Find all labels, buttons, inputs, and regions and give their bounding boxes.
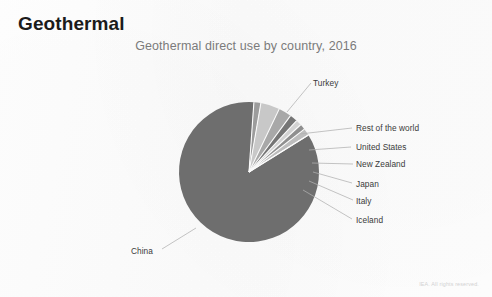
callout-label-italy: Italy [356,196,371,206]
callout-label-rest-of-the-world: Rest of the world [356,123,419,133]
callout-label-turkey: Turkey [313,78,338,88]
leader-line-japan [313,172,352,183]
leader-line-united-states [309,147,351,150]
leader-line-turkey [287,83,311,112]
callout-label-new-zealand: New Zealand [356,159,405,169]
callout-label-china: China [131,246,153,256]
pie-chart [0,0,492,297]
callout-label-united-states: United States [356,142,406,152]
leader-line-rest-of-the-world [300,128,352,134]
callout-label-japan: Japan [356,179,379,189]
copyright-note: IEA. All rights reserved. [419,281,479,287]
leader-line-china [162,228,196,249]
callout-label-iceland: Iceland [356,215,383,225]
